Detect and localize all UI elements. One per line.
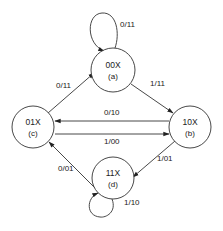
transition-a-to-a: 0/11 <box>90 13 135 51</box>
state-circle <box>92 157 134 199</box>
state-id: (a) <box>108 72 118 81</box>
transition-label: 0/11 <box>56 81 72 90</box>
transition-b-to-d: 1/01 <box>133 141 175 177</box>
state-name: 11X <box>106 168 121 178</box>
state-a: 00X (a) <box>91 48 135 92</box>
state-name: 01X <box>25 117 40 127</box>
arrow <box>48 73 94 113</box>
state-id: (b) <box>185 129 195 138</box>
transition-label: 1/11 <box>150 79 166 88</box>
transition-label: 0/11 <box>120 20 136 29</box>
state-circle <box>169 106 211 148</box>
state-circle <box>12 106 54 148</box>
transition-label: 1/00 <box>104 137 120 146</box>
transition-a-to-b: 1/11 <box>131 79 173 113</box>
state-name: 00X <box>105 60 120 70</box>
arrow <box>131 84 173 113</box>
state-diagram: 0/11 0/11 1/11 0/10 1/00 1/01 <box>0 0 223 231</box>
transition-label: 1/01 <box>157 154 173 163</box>
state-d: 11X (d) <box>92 157 134 199</box>
transition-label: 1/10 <box>124 198 140 207</box>
state-diagram-canvas: 0/11 0/11 1/11 0/10 1/00 1/01 <box>0 0 223 231</box>
state-id: (c) <box>28 129 38 138</box>
state-id: (d) <box>108 180 118 189</box>
transition-label: 0/10 <box>104 108 120 117</box>
transition-d-to-c: 0/01 <box>49 142 95 188</box>
transition-label: 0/01 <box>58 164 74 173</box>
state-b: 10X (b) <box>169 106 211 148</box>
transition-b-to-c: 0/10 <box>55 108 169 121</box>
self-loop-arrow <box>90 13 117 51</box>
state-c: 01X (c) <box>12 106 54 148</box>
transition-c-to-a: 0/11 <box>48 73 94 113</box>
transition-c-to-b: 1/00 <box>55 134 169 146</box>
state-name: 10X <box>182 117 197 127</box>
state-circle <box>91 48 135 92</box>
